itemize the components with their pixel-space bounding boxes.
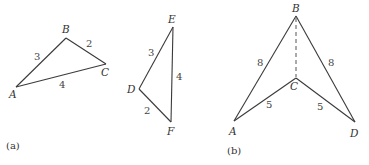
vertex-label-a: A — [8, 88, 17, 100]
vertex-label-b: B — [291, 2, 300, 14]
geometry-figure: A B C 3 2 4 E D F 3 4 2 (a) B C A D 8 8 … — [0, 0, 369, 165]
side-label-ab: 3 — [34, 51, 40, 62]
caption-a: (a) — [6, 140, 20, 151]
side-bd — [296, 16, 355, 122]
side-ab — [234, 16, 296, 121]
vertex-label-c: C — [101, 66, 109, 78]
vertex-label-f: F — [166, 125, 175, 137]
side-cd — [296, 78, 355, 122]
dart-figure-b: B C A D 8 8 5 5 — [228, 2, 359, 139]
vertex-label-e: E — [167, 13, 176, 25]
triangle-def: E D F 3 4 2 — [126, 13, 182, 137]
side-label-ac: 5 — [266, 99, 272, 110]
vertex-label-b: B — [61, 23, 70, 35]
side-label-ac: 4 — [59, 79, 65, 90]
vertex-label-c: C — [290, 80, 298, 92]
side-label-bc: 2 — [86, 38, 92, 49]
triangle-abc: A B C 3 2 4 — [8, 23, 109, 100]
vertex-label-d: D — [349, 127, 359, 139]
side-ef — [171, 27, 173, 122]
caption-b: (b) — [227, 145, 241, 156]
vertex-label-d: D — [126, 83, 136, 95]
side-label-de: 3 — [148, 47, 154, 58]
side-label-bd: 8 — [328, 57, 334, 68]
side-ac — [234, 78, 296, 121]
vertex-label-a: A — [228, 125, 237, 137]
side-label-cd: 5 — [317, 101, 323, 112]
side-de — [139, 27, 173, 89]
side-label-ab: 8 — [257, 57, 263, 68]
side-label-ef: 4 — [176, 71, 182, 82]
side-label-df: 2 — [144, 105, 150, 116]
